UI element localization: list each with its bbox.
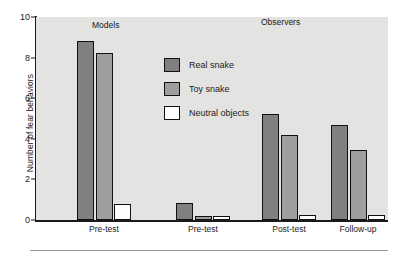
bar-pre-test-toy-snake: [195, 216, 212, 220]
bar-follow-up-real-snake: [331, 125, 348, 220]
bar-pre-test-neutral-objects: [213, 216, 230, 220]
legend-label: Neutral objects: [189, 108, 249, 118]
section-label-models: Models: [92, 20, 119, 30]
bar-chart: Number of fear behaviors 0246810 Models …: [0, 0, 394, 259]
y-tick-label: 4: [0, 134, 34, 144]
legend-label: Real snake: [189, 60, 234, 70]
x-axis-line: [35, 220, 388, 222]
plot-area: Models Observers Real snakeToy snakeNeut…: [36, 17, 388, 220]
bar-pre-test-toy-snake: [96, 53, 113, 220]
bar-pre-test-real-snake: [176, 203, 193, 220]
y-tick-label: 10: [0, 12, 34, 22]
y-tick-label: 8: [0, 53, 34, 63]
legend-item[interactable]: Neutral objects: [164, 101, 249, 125]
y-tick-label: 6: [0, 93, 34, 103]
y-tick-label: 2: [0, 174, 34, 184]
chart-legend: Real snakeToy snakeNeutral objects: [164, 53, 249, 125]
y-tick-label: 0: [0, 215, 34, 225]
legend-label: Toy snake: [189, 84, 230, 94]
x-tick-label: Post-test: [272, 224, 306, 234]
legend-swatch-icon: [164, 58, 180, 72]
bar-post-test-neutral-objects: [299, 215, 316, 220]
bar-pre-test-neutral-objects: [114, 204, 131, 220]
bar-pre-test-real-snake: [77, 41, 94, 220]
bar-follow-up-neutral-objects: [368, 215, 385, 220]
bar-post-test-real-snake: [262, 114, 279, 220]
bar-follow-up-toy-snake: [350, 150, 367, 220]
section-label-observers: Observers: [261, 17, 300, 27]
x-tick-label: Follow-up: [340, 224, 377, 234]
bottom-rule: [30, 250, 388, 251]
x-tick-label: Pre-test: [188, 224, 218, 234]
bar-post-test-toy-snake: [281, 135, 298, 220]
x-tick-label: Pre-test: [89, 224, 119, 234]
legend-swatch-icon: [164, 106, 180, 120]
legend-swatch-icon: [164, 82, 180, 96]
legend-item[interactable]: Toy snake: [164, 77, 249, 101]
legend-item[interactable]: Real snake: [164, 53, 249, 77]
